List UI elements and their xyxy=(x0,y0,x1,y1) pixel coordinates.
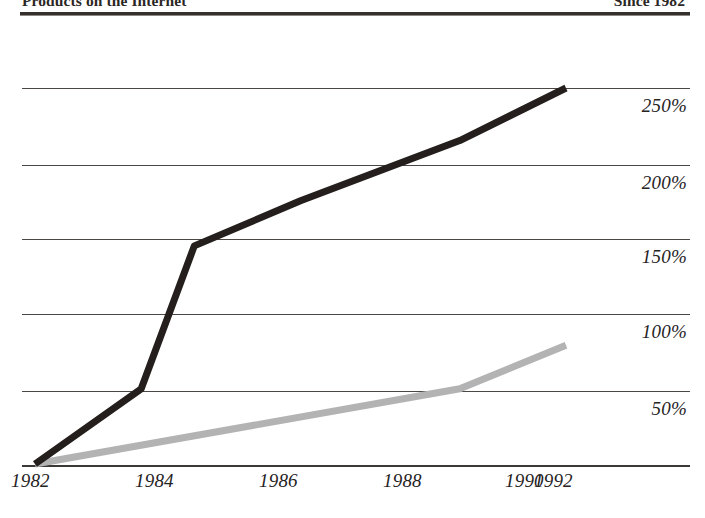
series-line-upper xyxy=(35,88,566,464)
x-axis-label-1988: 1988 xyxy=(383,470,422,492)
x-axis-label-1992: 1992 xyxy=(534,470,573,492)
y-axis-label-200: 200% xyxy=(642,172,687,194)
x-axis-label-1984: 1984 xyxy=(135,470,174,492)
y-axis-label-250: 250% xyxy=(642,95,687,117)
x-axis-label-1982: 1982 xyxy=(11,470,50,492)
y-axis-label-50: 50% xyxy=(652,398,687,420)
line-chart: 250%200%150%100%50% 19821984198619881990… xyxy=(0,0,705,518)
x-axis-label-1986: 1986 xyxy=(259,470,298,492)
y-axis-label-100: 100% xyxy=(642,321,687,343)
chart-plot-area xyxy=(0,0,705,518)
y-axis-label-150: 150% xyxy=(642,246,687,268)
